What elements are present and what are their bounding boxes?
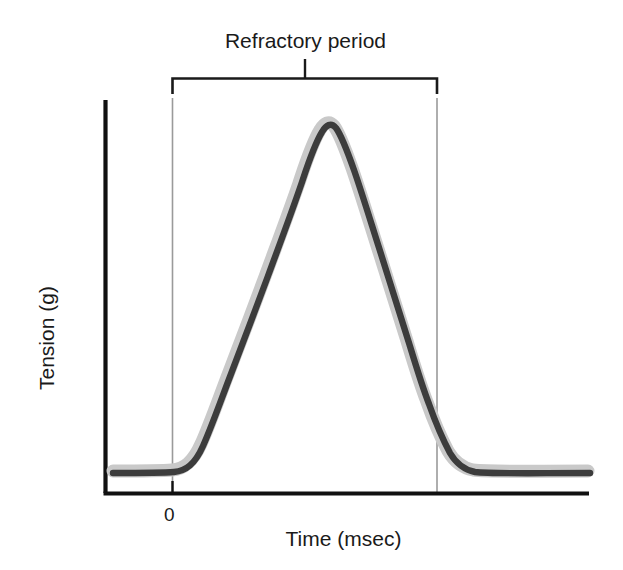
chart-plot-area: [0, 0, 623, 570]
x-axis-title: Time (msec): [32, 528, 623, 549]
bracket-path: [173, 79, 438, 95]
refractory-period-label: Refractory period: [0, 30, 617, 51]
tension-curve-halo: [113, 123, 588, 471]
x-tick-label-zero: 0: [164, 505, 175, 524]
twitch-tension-chart: Refractory period 0 Time (msec) Tension …: [0, 0, 623, 570]
refractory-period-bracket: [173, 59, 438, 94]
y-axis-title: Tension (g): [36, 286, 57, 390]
